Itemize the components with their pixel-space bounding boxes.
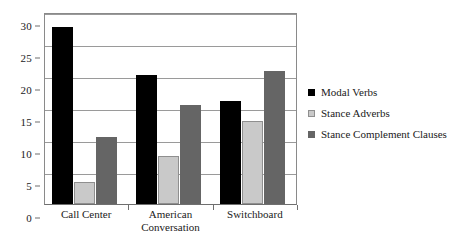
y-tick-mark-0 <box>35 218 40 219</box>
gridline-0 <box>45 206 296 207</box>
x-tick-mark-3 <box>297 205 298 210</box>
y-tick-label-10: 10 <box>21 149 32 160</box>
y-tick-mark-25 <box>35 58 40 59</box>
y-tick-mark-20 <box>35 90 40 91</box>
bar-switchboard-modal-verbs <box>220 101 241 204</box>
y-tick-label-20: 20 <box>21 85 32 96</box>
y-tick-label-0: 0 <box>26 213 32 224</box>
legend-label: Stance Complement Clauses <box>321 128 447 140</box>
y-tick-mark-15 <box>35 122 40 123</box>
x-axis-label-line: American <box>141 208 200 221</box>
bars-layer <box>45 14 296 204</box>
x-axis-label-call-center: Call Center <box>61 208 111 221</box>
bar-group-american-conversation <box>136 14 201 204</box>
bar-group-switchboard <box>220 14 285 204</box>
y-tick-label-25: 25 <box>21 53 32 64</box>
legend-label: Modal Verbs <box>321 86 377 98</box>
y-tick-label-30: 30 <box>21 21 32 32</box>
bar-switchboard-stance-adverbs <box>242 121 263 204</box>
bar-american-conversation-stance-adverbs <box>158 156 179 204</box>
bar-american-conversation-stance-complement-clauses <box>180 105 201 204</box>
legend-swatch-dark-gray-icon <box>308 131 315 138</box>
x-axis-label-line: Conversation <box>141 221 200 234</box>
x-axis-label-american-conversation: AmericanConversation <box>141 208 200 234</box>
y-tick-label-5: 5 <box>26 181 32 192</box>
bar-switchboard-stance-complement-clauses <box>264 71 285 204</box>
chart-legend: Modal VerbsStance AdverbsStance Compleme… <box>308 84 448 147</box>
legend-label: Stance Adverbs <box>321 107 390 119</box>
y-axis: 051015202530 <box>0 13 40 205</box>
x-tick-mark-2 <box>213 205 214 210</box>
x-axis-label-line: Switchboard <box>227 208 283 221</box>
legend-swatch-black-icon <box>308 89 315 96</box>
bar-american-conversation-modal-verbs <box>136 75 157 204</box>
legend-swatch-light-gray-icon <box>308 110 315 117</box>
bar-call-center-stance-adverbs <box>74 182 95 204</box>
legend-item-modal-verbs: Modal Verbs <box>308 84 448 100</box>
bar-call-center-modal-verbs <box>52 27 73 204</box>
y-tick-mark-30 <box>35 26 40 27</box>
x-axis-labels: Call CenterAmericanConversationSwitchboa… <box>44 208 297 240</box>
x-axis-label-switchboard: Switchboard <box>227 208 283 221</box>
y-tick-label-15: 15 <box>21 117 32 128</box>
x-tick-mark-1 <box>128 205 129 210</box>
x-axis-label-line: Call Center <box>61 208 111 221</box>
plot-area <box>44 13 297 205</box>
y-tick-mark-5 <box>35 186 40 187</box>
bar-call-center-stance-complement-clauses <box>96 137 117 204</box>
y-tick-mark-10 <box>35 154 40 155</box>
legend-item-stance-adverbs: Stance Adverbs <box>308 105 448 121</box>
bar-group-call-center <box>52 14 117 204</box>
bar-chart: 051015202530 Call CenterAmericanConversa… <box>0 0 450 242</box>
legend-item-stance-complement-clauses: Stance Complement Clauses <box>308 126 448 142</box>
